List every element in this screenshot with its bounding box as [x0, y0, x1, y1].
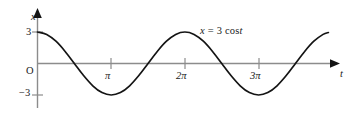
- x-tick-label-3pi-text: 3π: [250, 70, 261, 81]
- x-tick-label-pi: π: [105, 71, 110, 82]
- y-tick-label-minus-3: −3: [19, 88, 30, 99]
- equation-argument: t: [240, 25, 243, 36]
- y-axis-label: x: [31, 12, 36, 23]
- x-axis-label: t: [340, 69, 343, 80]
- equation-lhs: x: [200, 25, 205, 36]
- plot-area: [0, 0, 351, 116]
- cosine-graph-figure: x t O 3 −3 π 2π 3π x = 3 cost: [0, 0, 351, 116]
- x-axis-arrowhead: [330, 59, 340, 68]
- x-tick-label-2pi-text: 2π: [176, 70, 187, 81]
- equation-equals: =: [208, 25, 214, 36]
- equation-function: cos: [225, 25, 240, 36]
- equation-amplitude: 3: [217, 25, 222, 36]
- x-tick-label-2pi: 2π: [176, 71, 187, 82]
- equation-annotation: x = 3 cost: [200, 26, 243, 37]
- y-tick-label-3: 3: [26, 27, 31, 38]
- origin-label: O: [26, 66, 34, 77]
- x-tick-label-3pi: 3π: [250, 71, 261, 82]
- x-tick-label-pi-text: π: [105, 70, 110, 81]
